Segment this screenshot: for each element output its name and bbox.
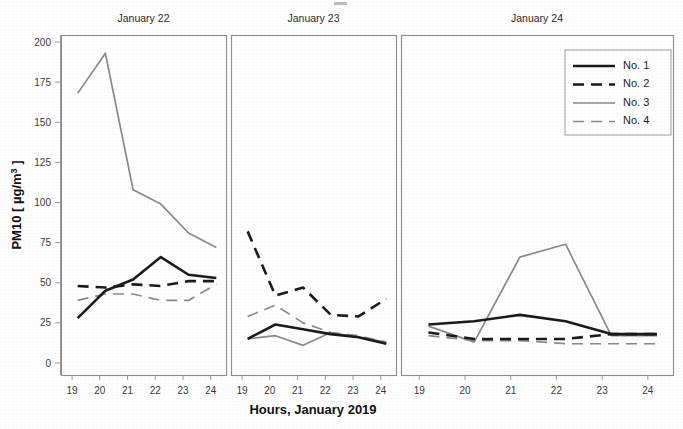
series-line-no-3 [78,53,217,247]
x-tick-label: 23 [347,385,359,396]
panel-frame-1 [62,36,227,376]
y-axis-title-tail: ] [9,160,24,168]
x-tick-label: 22 [320,385,332,396]
x-tick-label: 20 [94,385,106,396]
x-tick-label: 19 [67,385,79,396]
x-tick-label: 21 [505,385,517,396]
legend-label-2: No. 2 [623,77,649,89]
x-tick-label: 22 [150,385,162,396]
panel-title-3: January 24 [511,12,563,24]
panel-title-2: January 23 [288,12,340,24]
panel-1: January 22192021222324 [62,12,227,396]
y-tick-label: 100 [34,197,51,208]
y-axis-title-main: PM10 [ µg/m [9,173,24,249]
y-tick-label: 50 [40,277,52,288]
x-tick-label: 19 [414,385,426,396]
x-tick-label: 22 [551,385,563,396]
y-tick-label: 175 [34,77,51,88]
y-tick-label: 125 [34,157,51,168]
legend-label-3: No. 3 [623,96,649,108]
x-tick-label: 24 [375,385,387,396]
y-tick-label: 0 [45,358,51,369]
x-tick-label: 24 [642,385,654,396]
y-tick-label: 200 [34,37,51,48]
legend: No. 1No. 2No. 3No. 4 [565,50,671,135]
y-tick-label: 75 [40,237,52,248]
x-tick-label: 20 [264,385,276,396]
x-tick-label: 21 [292,385,304,396]
legend-label-4: No. 4 [623,114,649,126]
series-line-no-2 [78,281,217,287]
panel-series-group-1 [78,53,217,318]
legend-label-1: No. 1 [623,59,649,71]
series-line-no-3 [428,244,657,342]
chart-figure: 0255075100125150175200PM10 [ µg/m3 ]Janu… [0,0,683,429]
x-tick-label: 23 [597,385,609,396]
panel-title-1: January 22 [118,12,170,24]
x-tick-label: 24 [205,385,217,396]
panel-series-group-2 [248,231,387,345]
y-tick-label: 25 [40,317,52,328]
series-line-no-2 [248,231,387,316]
x-tick-label: 21 [122,385,134,396]
series-line-no-1 [428,315,657,334]
panel-series-group-3 [428,244,657,344]
panel-2: January 23192021222324 [232,12,397,396]
y-tick-label: 150 [34,117,51,128]
x-tick-label: 20 [459,385,471,396]
y-axis: 0255075100125150175200 [34,35,60,375]
x-axis-title: Hours, January 2019 [249,402,376,417]
scan-speck [334,2,347,5]
pm10-multi-panel-line-chart: 0255075100125150175200PM10 [ µg/m3 ]Janu… [0,0,683,429]
x-tick-label: 23 [177,385,189,396]
panel-frame-2 [232,36,397,376]
x-tick-label: 19 [237,385,249,396]
y-axis-title: PM10 [ µg/m3 ] [9,160,24,249]
